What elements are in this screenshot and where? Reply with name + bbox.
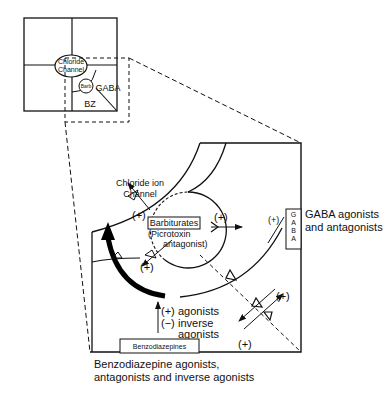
chloride-channel-label: Channel [123, 189, 157, 199]
plus-right: (+) [214, 211, 228, 223]
receptor-complex-diagram: Chloride Channel Barb GABA BZ [0, 0, 391, 396]
zoom-line-left [65, 122, 90, 352]
gaba-letter: A [291, 219, 296, 226]
antagonist-label: antagonist) [163, 239, 208, 249]
plus-below-circle: (+) [140, 261, 154, 273]
gaba-letter: B [291, 227, 296, 234]
chloride-ion-label: Chloride ion [116, 178, 164, 188]
inset-barb-label: Barb [81, 83, 92, 89]
plus-lower-right-bottom: (+) [238, 338, 252, 350]
inset-overview: Chloride Channel Barb GABA BZ [24, 18, 129, 122]
gaba-antagonists-label: and antagonists [305, 221, 383, 233]
inset-gaba-label: GABA [95, 83, 120, 93]
gaba-agonists-label: GABA agonists [305, 208, 379, 220]
bz-modulation-arrow [108, 238, 165, 296]
gaba-letter: A [291, 235, 296, 242]
plus-left: (+) [132, 209, 146, 221]
inverse-minus: (−) [161, 317, 175, 329]
agonists-label: agonists [178, 305, 219, 317]
inset-channel-label: Channel [58, 66, 85, 73]
plus-gaba: (+) [268, 215, 279, 225]
bz-caption-line2: antagonists and inverse agonists [94, 371, 255, 383]
inverse-agonists-label: agonists [178, 328, 219, 340]
plus-lower-right-top: (+) [276, 290, 290, 302]
benzodiazepines-label: Benzodiazepines [133, 343, 187, 351]
lower-right-arrow-1 [239, 289, 275, 321]
inset-bz-label: BZ [84, 99, 96, 109]
zoom-line-top [129, 58, 301, 143]
agonists-plus: (+) [161, 305, 175, 317]
channel-inner-arc [188, 143, 226, 192]
bz-caption-line1: Benzodiazepine agonists, [94, 358, 219, 370]
inset-chloride-label: Chloride [58, 58, 84, 65]
barbiturates-label: Barbiturates [150, 218, 199, 228]
picrotoxin-label: (Picrotoxin [148, 229, 191, 239]
gaba-letter: G [291, 211, 296, 218]
